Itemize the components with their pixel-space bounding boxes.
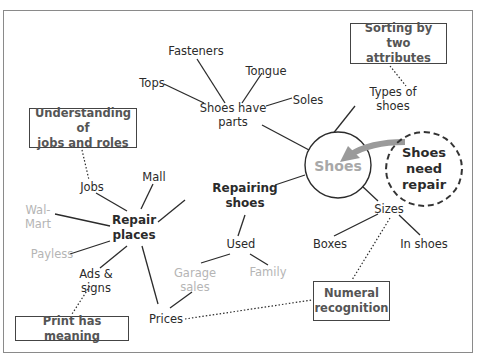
node-payless: Payless xyxy=(31,247,74,261)
central-topic-shoes: Shoes xyxy=(314,159,362,173)
node-used: Used xyxy=(227,237,256,251)
node-repair-places: Repair places xyxy=(112,213,156,243)
node-tongue: Tongue xyxy=(245,64,286,78)
node-garage-sales: Garage sales xyxy=(174,266,216,294)
concept-box-jobs-roles: Understanding of jobs and roles xyxy=(29,108,137,148)
concept-box-sorting: Sorting by two attributes xyxy=(350,23,447,64)
node-mall: Mall xyxy=(142,170,165,184)
node-walmart: Wal- Mart xyxy=(25,203,51,231)
node-types-of-shoes: Types of shoes xyxy=(369,85,416,113)
node-sizes: Sizes xyxy=(374,202,404,216)
node-family: Family xyxy=(249,265,286,279)
node-tops: Tops xyxy=(139,76,164,90)
node-fasteners: Fasteners xyxy=(168,44,223,58)
node-prices: Prices xyxy=(149,312,183,326)
node-repairing-shoes: Repairing shoes xyxy=(212,181,277,211)
node-in-shoes: In shoes xyxy=(400,237,448,251)
node-shoes-have-parts: Shoes have parts xyxy=(200,101,267,129)
node-soles: Soles xyxy=(293,93,324,107)
node-jobs: Jobs xyxy=(80,180,104,194)
node-boxes: Boxes xyxy=(313,237,347,251)
node-ads-signs: Ads & signs xyxy=(79,267,113,295)
concept-box-print-meaning: Print has meaning xyxy=(15,316,129,341)
concept-box-numeral-recognition: Numeral recognition xyxy=(313,281,390,321)
trigger-circle-shoes-need-repair: Shoes need repair xyxy=(385,131,463,207)
